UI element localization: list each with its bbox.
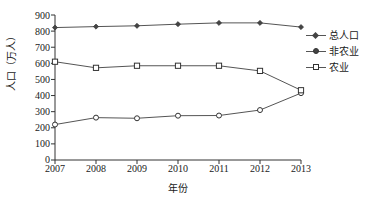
data-point <box>175 22 180 27</box>
data-point <box>257 20 262 25</box>
data-point <box>298 24 303 29</box>
legend-item-non-agricultural[interactable]: 非农业 <box>306 44 366 59</box>
series-square <box>52 59 303 93</box>
data-point <box>53 122 58 127</box>
data-point <box>298 88 303 93</box>
data-point <box>176 113 181 118</box>
data-point <box>52 59 57 64</box>
y-axis-ticks <box>51 15 55 160</box>
series-diamond <box>52 20 303 30</box>
population-line-chart: 人口（万人） 900 800 700 600 500 400 300 200 1… <box>0 0 366 202</box>
data-point <box>175 63 180 68</box>
series-layer <box>52 20 303 127</box>
data-point <box>258 108 263 113</box>
data-point <box>257 68 262 73</box>
chart-legend: 总人口 非农业 农业 <box>306 28 366 76</box>
data-point <box>135 116 140 121</box>
legend-label-total-population: 总人口 <box>329 30 359 41</box>
data-point <box>93 24 98 29</box>
data-point <box>134 23 139 28</box>
data-point <box>93 65 98 70</box>
legend-label-agricultural: 农业 <box>329 62 349 73</box>
diamond-marker-icon <box>306 30 326 41</box>
data-point <box>216 63 221 68</box>
data-point <box>217 113 222 118</box>
legend-item-agricultural[interactable]: 农业 <box>306 60 366 75</box>
data-point <box>134 63 139 68</box>
square-marker-icon <box>306 62 326 73</box>
data-point <box>94 115 99 120</box>
legend-item-total-population[interactable]: 总人口 <box>306 28 366 43</box>
legend-label-non-agricultural: 非农业 <box>329 46 359 57</box>
series-circle <box>53 91 304 127</box>
circle-marker-icon <box>306 46 326 57</box>
data-point <box>52 25 57 30</box>
data-point <box>216 20 221 25</box>
x-axis-ticks <box>55 160 301 164</box>
